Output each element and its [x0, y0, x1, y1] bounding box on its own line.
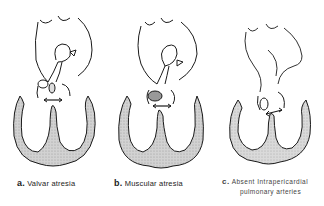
caption-c-line2: pulmonary arteries	[240, 186, 301, 197]
caption-a-label: Valvar atresia	[27, 179, 75, 188]
heart-diagram-a	[0, 0, 108, 206]
figure-b-muscular-atresia: b. Muscular atresia	[105, 0, 213, 206]
caption-b-label: Muscular atresia	[125, 179, 183, 188]
caption-b: b. Muscular atresia	[114, 178, 183, 188]
figure-a-valvar-atresia: a. Valvar atresia	[0, 0, 108, 206]
heart-diagram-c	[210, 0, 324, 206]
caption-c-label: Absent Intrapericardial	[232, 178, 309, 185]
heart-diagram-b	[105, 0, 215, 206]
caption-c: c. Absent Intrapericardial	[222, 177, 308, 186]
figure-c-absent-pulmonary-arteries: c. Absent Intrapericardial pulmonary art…	[210, 0, 324, 206]
caption-b-letter: b.	[114, 178, 122, 188]
caption-a-letter: a.	[17, 178, 25, 188]
caption-a: a. Valvar atresia	[17, 178, 75, 188]
caption-c-letter: c.	[222, 177, 230, 186]
